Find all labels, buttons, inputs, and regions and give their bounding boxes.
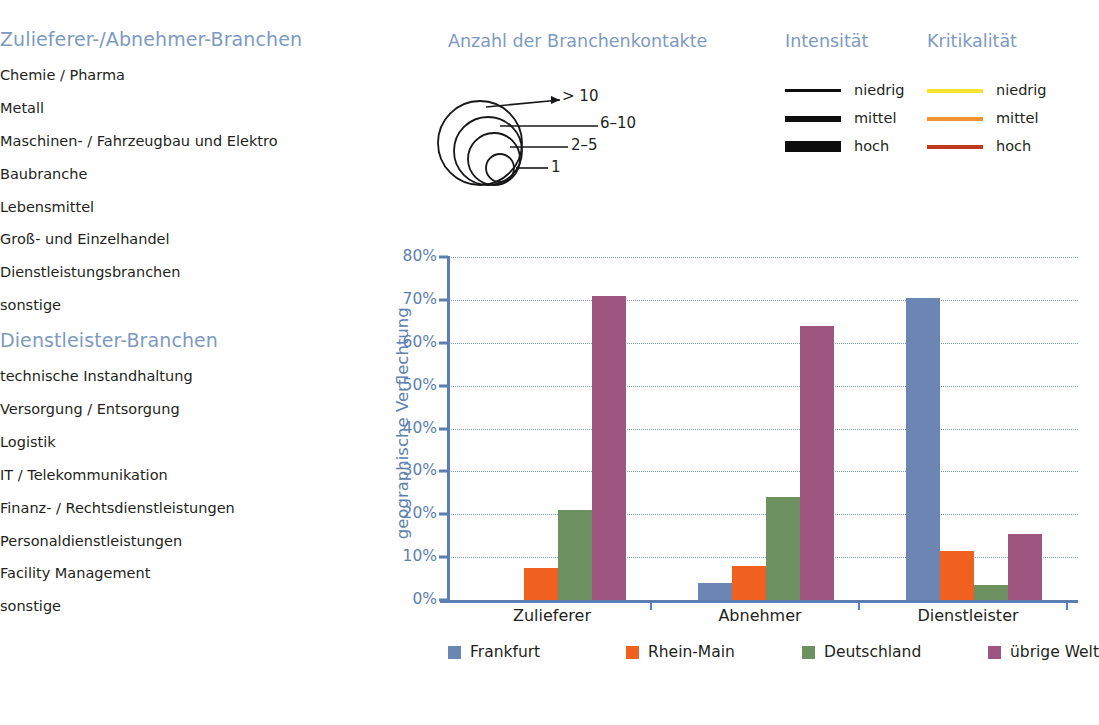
intensity-legend-row: niedrig xyxy=(785,77,905,105)
y-axis-tick-label: 70% xyxy=(403,292,437,308)
gridline xyxy=(448,557,1078,558)
intensity-legend-label: mittel xyxy=(854,111,896,126)
criticality-legend-row: hoch xyxy=(927,133,1047,161)
bar xyxy=(524,568,558,600)
series-color-swatch-icon xyxy=(988,646,1001,659)
branch-item: technische Instandhaltung xyxy=(0,369,372,384)
criticality-legend-row: niedrig xyxy=(927,77,1047,105)
series-legend-label: Rhein-Main xyxy=(648,645,735,661)
x-axis-group-label: Dienstleister xyxy=(917,608,1018,624)
series-legend-item: Deutschland xyxy=(802,645,921,661)
line-swatch-icon xyxy=(785,89,841,92)
branch-item: Baubranche xyxy=(0,167,372,182)
geographic-linkage-bar-chart: geographische Verflechtung 0%10%20%30%40… xyxy=(362,240,1072,725)
bubble-size-label: 1 xyxy=(551,160,561,175)
criticality-legend-title: Kritikalität xyxy=(927,33,1047,51)
branch-item: Finanz- / Rechtsdienstleistungen xyxy=(0,501,372,516)
bar xyxy=(1008,534,1042,600)
gridline xyxy=(448,429,1078,430)
gridline xyxy=(448,471,1078,472)
series-color-swatch-icon xyxy=(626,646,639,659)
series-legend-label: übrige Welt xyxy=(1010,645,1099,661)
bar xyxy=(974,585,1008,600)
series-legend-label: Deutschland xyxy=(824,645,921,661)
gridline xyxy=(448,343,1078,344)
line-swatch-icon xyxy=(785,116,841,122)
bubble-size-label: > 10 xyxy=(562,89,598,104)
nested-circles-icon xyxy=(428,69,688,199)
branch-item: Versorgung / Entsorgung xyxy=(0,402,372,417)
branch-item: Maschinen- / Fahrzeugbau und Elektro xyxy=(0,134,372,149)
y-axis-tick-label: 10% xyxy=(403,549,437,565)
x-axis-group-label: Abnehmer xyxy=(718,608,801,624)
bar xyxy=(940,551,974,600)
branch-item: Lebensmittel xyxy=(0,200,372,215)
bar xyxy=(732,566,766,600)
series-legend-item: Rhein-Main xyxy=(626,645,735,661)
intensity-legend-label: hoch xyxy=(854,139,889,154)
plot-inner: 0%10%20%30%40%50%60%70%80% xyxy=(448,257,1072,600)
branch-list-supplier-customer: Chemie / Pharma Metall Maschinen- / Fahr… xyxy=(0,68,372,313)
criticality-legend-label: hoch xyxy=(996,139,1031,154)
series-legend-item: Frankfurt xyxy=(448,645,540,661)
branch-item: sonstige xyxy=(0,599,372,614)
branch-item: IT / Telekommunikation xyxy=(0,468,372,483)
y-axis-tick-label: 20% xyxy=(403,507,437,523)
bar xyxy=(592,296,626,600)
bar xyxy=(698,583,732,600)
gridline xyxy=(448,386,1078,387)
series-legend-label: Frankfurt xyxy=(470,645,540,661)
y-axis-tick-label: 50% xyxy=(403,378,437,394)
gridline xyxy=(448,300,1078,301)
gridline xyxy=(448,514,1078,515)
series-color-swatch-icon xyxy=(802,646,815,659)
y-axis-line xyxy=(447,256,450,602)
plot-area: 0%10%20%30%40%50%60%70%80% xyxy=(448,257,1072,600)
x-axis-group-label: Zulieferer xyxy=(513,608,591,624)
intensity-legend-label: niedrig xyxy=(854,83,905,98)
y-axis-tick-label: 30% xyxy=(403,464,437,480)
intensity-legend-row: hoch xyxy=(785,133,905,161)
line-swatch-icon xyxy=(785,141,841,152)
branch-section-heading-supplier-customer: Zulieferer-/Abnehmer-Branchen xyxy=(0,30,372,49)
branch-item: Dienstleistungsbranchen xyxy=(0,265,372,280)
arrowhead-icon xyxy=(551,96,560,104)
bar xyxy=(766,497,800,600)
y-axis-tick-label: 0% xyxy=(412,592,437,608)
branch-item: Groß- und Einzelhandel xyxy=(0,232,372,247)
branch-list-column: Zulieferer-/Abnehmer-Branchen Chemie / P… xyxy=(0,30,372,632)
line-swatch-icon xyxy=(927,117,983,121)
bar xyxy=(906,298,940,600)
branch-item: sonstige xyxy=(0,298,372,313)
bubble-size-legend-figure: > 10 6–10 2–5 1 xyxy=(428,69,688,199)
branch-item: Chemie / Pharma xyxy=(0,68,372,83)
branch-list-service-provider: technische Instandhaltung Versorgung / E… xyxy=(0,369,372,614)
line-swatch-icon xyxy=(927,145,983,149)
bubble-size-label: 2–5 xyxy=(571,138,598,153)
branch-item: Facility Management xyxy=(0,566,372,581)
intensity-legend: Intensität niedrig mittel hoch xyxy=(785,33,905,161)
criticality-legend-label: niedrig xyxy=(996,83,1047,98)
series-legend-item: übrige Welt xyxy=(988,645,1099,661)
gridline xyxy=(448,257,1078,258)
y-axis-tick-label: 60% xyxy=(403,335,437,351)
y-axis-tick-label: 40% xyxy=(403,421,437,437)
bubble-size-legend-title: Anzahl der Branchenkontakte xyxy=(448,33,768,51)
branch-item: Metall xyxy=(0,101,372,116)
intensity-legend-title: Intensität xyxy=(785,33,905,51)
series-color-swatch-icon xyxy=(448,646,461,659)
branch-item: Personaldienstleistungen xyxy=(0,534,372,549)
x-axis-line xyxy=(440,600,1078,603)
criticality-legend: Kritikalität niedrig mittel hoch xyxy=(927,33,1047,161)
bubble-size-label: 6–10 xyxy=(600,116,636,131)
intensity-legend-row: mittel xyxy=(785,105,905,133)
line-swatch-icon xyxy=(927,89,983,93)
bar xyxy=(558,510,592,600)
y-axis-tick-label: 80% xyxy=(403,249,437,265)
bubble-size-legend: Anzahl der Branchenkontakte > 10 6–10 2–… xyxy=(448,33,768,51)
branch-section-heading-service-provider: Dienstleister-Branchen xyxy=(0,331,372,350)
branch-item: Logistik xyxy=(0,435,372,450)
criticality-legend-label: mittel xyxy=(996,111,1038,126)
criticality-legend-row: mittel xyxy=(927,105,1047,133)
bar xyxy=(800,326,834,600)
